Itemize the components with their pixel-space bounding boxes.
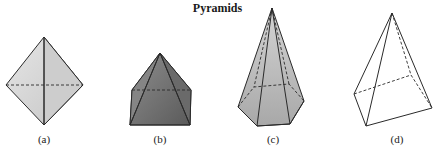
pyramid-b — [130, 53, 191, 125]
pyramid-a — [6, 37, 83, 125]
pyramid-c — [238, 8, 304, 126]
label-c: (c) — [258, 133, 288, 145]
label-d: (d) — [382, 133, 412, 145]
pyramid-d — [354, 13, 432, 126]
label-b: (b) — [145, 133, 175, 145]
pyramids-diagram — [0, 0, 435, 157]
label-a: (a) — [29, 133, 59, 145]
